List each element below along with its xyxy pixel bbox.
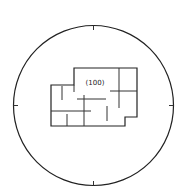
axis-ticks (14, 26, 174, 186)
face-outline (51, 68, 137, 126)
internal-boundaries (51, 68, 137, 126)
face-index-label: (100) (86, 79, 105, 87)
crystal-face-diagram: (100) (0, 0, 184, 195)
projection-circle (14, 26, 174, 186)
